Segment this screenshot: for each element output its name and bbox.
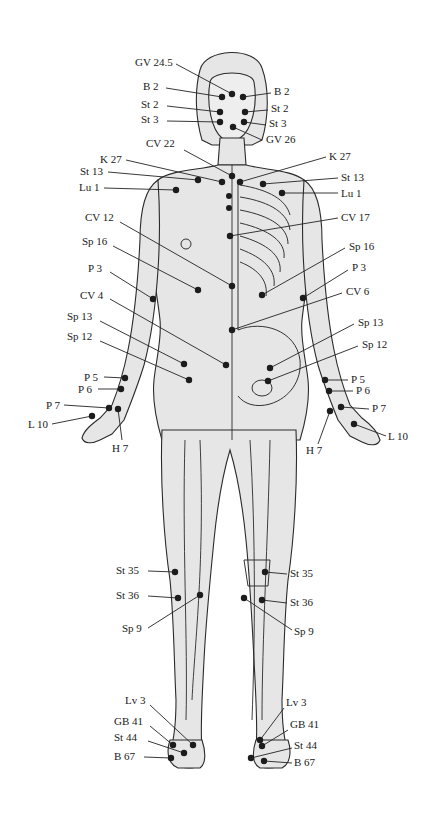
acupoint-label-sp12_l: Sp 12: [67, 330, 92, 342]
acupoint-label-b2_l: B 2: [143, 80, 159, 92]
acupoint-marker-st13_r: [260, 181, 266, 187]
acupoint-marker-p6_r: [326, 388, 332, 394]
acupoint-label-st3_l: St 3: [141, 113, 159, 125]
acupoint-label-sp9_l: Sp 9: [122, 622, 142, 634]
acupoint-marker-b2_l: [219, 94, 225, 100]
leader-line-gb41_l: [150, 726, 173, 745]
acupoint-label-lv3_l: Lv 3: [125, 694, 146, 706]
acupoint-label-cv12: CV 12: [85, 211, 114, 223]
leader-line-h7_r: [318, 411, 330, 444]
acupoint-label-k27_r: K 27: [329, 150, 351, 162]
acupoint-label-sp9_r: Sp 9: [294, 625, 314, 637]
acupoint-label-st13_r: St 13: [341, 171, 364, 183]
acupoint-label-st13_l: St 13: [80, 165, 103, 177]
acupoint-marker-sp9_r: [241, 595, 247, 601]
acupoint-label-p7_l: P 7: [46, 399, 60, 411]
acupoint-label-p7_r: P 7: [372, 402, 386, 414]
leader-line-p7_l: [64, 405, 109, 408]
acupoint-marker-cv4: [223, 362, 229, 368]
acupoint-label-p5_l: P 5: [84, 371, 98, 383]
acupoint-label-b67_r: B 67: [294, 756, 316, 768]
acupoint-marker-sp13_l: [181, 361, 187, 367]
acupoint-marker-st2_r: [242, 109, 248, 115]
acupoint-label-l10_l: L 10: [28, 418, 49, 430]
acupoint-marker-extra-0: [226, 193, 232, 199]
acupoint-marker-st36_r: [259, 597, 265, 603]
acupoint-marker-st44_l: [181, 750, 187, 756]
acupoint-label-sp16_l: Sp 16: [82, 235, 108, 247]
acupoint-marker-p3_l: [150, 296, 156, 302]
acupoint-label-sp12_r: Sp 12: [362, 338, 387, 350]
acupoint-label-st36_l: St 36: [116, 589, 139, 601]
acupoint-marker-k27_r: [237, 179, 243, 185]
acupoint-label-gb41_l: GB 41: [114, 715, 143, 727]
acupoint-label-l10_r: L 10: [388, 430, 409, 442]
acupoint-marker-extra-1: [226, 205, 232, 211]
acupoint-marker-h7_r: [327, 408, 333, 414]
acupoint-marker-lv3_r: [257, 737, 263, 743]
acupoint-marker-k27_l: [219, 179, 225, 185]
acupoint-label-p6_r: P 6: [356, 384, 370, 396]
acupoint-marker-gv24_5: [229, 91, 235, 97]
acupoint-label-sp13_r: Sp 13: [358, 316, 384, 328]
acupoint-marker-p6_l: [118, 386, 124, 392]
acupoint-label-gv24_5: GV 24.5: [135, 56, 173, 68]
acupuncture-diagram: GV 24.5B 2B 2St 2St 2St 3St 3GV 26CV 22K…: [0, 0, 434, 814]
acupoint-label-k27_l: K 27: [100, 153, 122, 165]
acupoint-label-lu1_l: Lu 1: [79, 181, 99, 193]
acupoint-marker-st3_r: [241, 119, 247, 125]
acupoint-marker-st44_r: [248, 755, 254, 761]
acupoint-label-st35_l: St 35: [116, 564, 139, 576]
acupoint-marker-p3_r: [300, 295, 306, 301]
acupoint-marker-gb41_r: [259, 743, 265, 749]
acupoint-label-st36_r: St 36: [290, 596, 313, 608]
acupoint-marker-st36_l: [175, 595, 181, 601]
acupoint-marker-st2_l: [217, 109, 223, 115]
acupoint-marker-sp16_r: [259, 292, 265, 298]
acupoint-marker-lu1_r: [279, 190, 285, 196]
acupoint-marker-lu1_l: [173, 187, 179, 193]
acupoint-label-p3_l: P 3: [88, 262, 102, 274]
acupoint-label-st44_l: St 44: [114, 731, 137, 743]
acupoint-label-p3_r: P 3: [352, 261, 366, 273]
acupoint-label-cv17: CV 17: [341, 211, 370, 223]
acupoint-marker-st3_l: [217, 119, 223, 125]
acupoint-label-p6_l: P 6: [78, 383, 92, 395]
acupoint-marker-sp9_l: [197, 592, 203, 598]
acupoint-marker-l10_r: [351, 421, 357, 427]
acupoint-marker-st35_r: [262, 569, 268, 575]
acupoint-marker-sp12_r: [265, 378, 271, 384]
acupoint-label-sp16_r: Sp 16: [349, 240, 375, 252]
leader-line-b67_l: [144, 757, 171, 758]
acupoint-label-st3_r: St 3: [269, 117, 287, 129]
acupoint-marker-sp12_l: [186, 377, 192, 383]
acupoint-marker-h7_l: [115, 406, 121, 412]
acupoint-marker-sp13_r: [267, 365, 273, 371]
acupoint-label-lv3_r: Lv 3: [286, 696, 307, 708]
acupoint-marker-cv6: [229, 327, 235, 333]
leader-line-l10_l: [52, 416, 92, 424]
acupoint-label-st35_r: St 35: [290, 567, 313, 579]
acupoint-marker-gv26: [230, 124, 236, 130]
acupoint-marker-st13_l: [195, 177, 201, 183]
acupoint-label-h7_r: H 7: [306, 444, 323, 456]
acupoint-marker-cv12: [229, 283, 235, 289]
acupoint-marker-l10_l: [89, 413, 95, 419]
acupoint-marker-cv17: [227, 233, 233, 239]
acupoint-label-st2_r: St 2: [271, 102, 288, 114]
acupoint-label-b2_r: B 2: [274, 85, 290, 97]
acupoint-marker-b2_r: [240, 94, 246, 100]
acupoint-label-h7_l: H 7: [112, 442, 129, 454]
acupoint-marker-p5_l: [122, 375, 128, 381]
acupoint-marker-p7_r: [338, 404, 344, 410]
acupoint-label-lu1_r: Lu 1: [341, 187, 361, 199]
acupoint-label-gv26: GV 26: [266, 133, 296, 145]
acupoint-marker-st35_l: [172, 569, 178, 575]
acupoint-label-cv4: CV 4: [80, 289, 104, 301]
acupoint-label-cv6: CV 6: [346, 285, 370, 297]
acupoint-marker-sp16_l: [195, 287, 201, 293]
acupoint-marker-gb41_l: [170, 742, 176, 748]
acupoint-label-b67_l: B 67: [114, 750, 136, 762]
acupoint-marker-p5_r: [322, 377, 328, 383]
acupoint-marker-b67_l: [168, 755, 174, 761]
